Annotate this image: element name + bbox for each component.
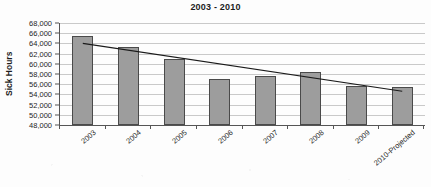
bar-2006 — [209, 79, 230, 125]
bar-2007 — [255, 76, 276, 125]
x-axis-tick-label: 2006 — [216, 128, 235, 146]
y-axis-tick-label: 50,000 — [29, 110, 52, 119]
y-axis-tick-label: 48,000 — [29, 121, 52, 130]
x-axis-tick-label: 2005 — [170, 128, 189, 146]
bar-2003 — [72, 36, 93, 125]
chart-container: 2003 - 2010 Sick Hours 68,00066,00064,00… — [0, 0, 431, 187]
y-axis-tick-label: 58,000 — [29, 70, 52, 79]
bar-2008 — [300, 72, 321, 125]
bar-2009 — [346, 86, 367, 125]
x-axis-tick-labels: 20032004200520062007200820092010-Project… — [59, 128, 424, 184]
x-axis-tick-label: 2004 — [124, 128, 143, 146]
y-axis-tick-label: 56,000 — [29, 80, 52, 89]
y-axis-tick-label: 66,000 — [29, 29, 52, 38]
x-axis-tick-label: 2003 — [79, 128, 98, 146]
bar-series — [60, 23, 425, 125]
x-axis-tick-label: 2007 — [261, 128, 280, 146]
x-axis-tick-label: 2008 — [307, 128, 326, 146]
bar-2005 — [164, 59, 185, 125]
y-axis-tick-label: 60,000 — [29, 59, 52, 68]
bar-2004 — [118, 47, 139, 125]
plot-area — [59, 23, 425, 126]
y-axis-tick-label: 54,000 — [29, 90, 52, 99]
chart-title: 2003 - 2010 — [0, 2, 431, 12]
y-axis-tick-labels: 68,00066,00064,00062,00060,00058,00056,0… — [0, 23, 55, 125]
y-axis-tick-label: 52,000 — [29, 100, 52, 109]
y-axis-tick-label: 64,000 — [29, 39, 52, 48]
y-axis-tick-label: 68,000 — [29, 19, 52, 28]
y-axis-tick-label: 62,000 — [29, 49, 52, 58]
x-axis-tick-label: 2010-Projected — [372, 128, 417, 168]
bar-2010-projected — [392, 87, 413, 125]
x-axis-tick-label: 2009 — [353, 128, 372, 146]
